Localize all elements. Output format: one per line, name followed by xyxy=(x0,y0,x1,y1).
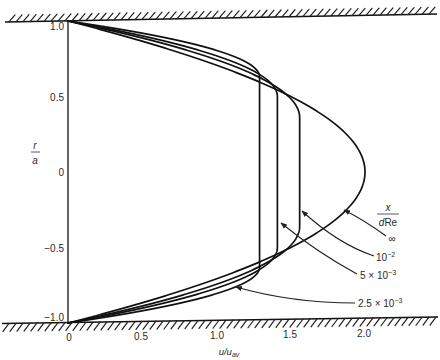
hatch-mark xyxy=(409,317,415,325)
y-tick-label: 0 xyxy=(58,167,64,178)
hatch-mark xyxy=(374,318,380,326)
hatch-mark xyxy=(429,7,435,14)
hatch-mark xyxy=(332,318,338,326)
y-tick-label: 0.5 xyxy=(50,92,64,103)
hatch-mark xyxy=(311,319,317,327)
hatch-mark xyxy=(37,14,43,21)
hatch-mark xyxy=(206,320,212,328)
hatch-mark xyxy=(416,317,422,325)
hatch-mark xyxy=(331,9,337,16)
hatch-mark xyxy=(178,321,184,329)
hatch-mark xyxy=(212,11,218,18)
hatch-mark xyxy=(226,11,232,18)
leader-lines xyxy=(236,210,386,303)
hatch-mark xyxy=(275,10,281,17)
x-tick-label: 1.0 xyxy=(210,330,224,341)
hatch-mark xyxy=(192,321,198,329)
hatch-mark xyxy=(234,320,240,328)
x-tick-label: 2.0 xyxy=(357,328,371,339)
x-tick-labels: 0 0.5 1.0 1.5 2.0 xyxy=(66,328,371,343)
profile-curve-5-x-10-3 xyxy=(68,21,277,323)
hatch-mark xyxy=(163,12,169,19)
y-axis-label: r a xyxy=(31,140,40,166)
hatch-mark xyxy=(128,13,134,20)
series-label-main: 2.5 × 10 xyxy=(358,298,395,309)
hatch-mark xyxy=(352,9,358,16)
hatch-mark xyxy=(345,9,351,16)
hatch-mark xyxy=(86,14,92,21)
hatch-mark xyxy=(157,321,163,329)
hatch-mark xyxy=(248,320,254,328)
hatch-mark xyxy=(150,321,156,329)
hatch-mark xyxy=(276,319,282,327)
hatch-mark xyxy=(52,323,58,331)
hatch-mark xyxy=(115,322,121,330)
series-label-exponent: −3 xyxy=(394,297,402,304)
hatch-mark xyxy=(289,10,295,17)
hatch-mark xyxy=(415,7,421,14)
x-axis-label-subscript: av xyxy=(232,351,240,358)
hatch-mark xyxy=(422,7,428,14)
x-tick-label: 0 xyxy=(66,332,72,343)
hatch-mark xyxy=(3,323,9,331)
hatch-mark xyxy=(164,321,170,329)
hatch-mark xyxy=(17,323,23,331)
hatch-mark xyxy=(177,12,183,19)
hatch-mark xyxy=(156,12,162,19)
hatch-mark xyxy=(199,320,205,328)
series-label-exponent: −2 xyxy=(387,251,395,258)
hatch-mark xyxy=(269,319,275,327)
hatch-mark xyxy=(191,12,197,19)
hatch-mark xyxy=(108,322,114,330)
x-axis-label: u/uav xyxy=(219,346,240,358)
hatch-mark xyxy=(283,319,289,327)
velocity-profiles xyxy=(68,21,365,323)
hatch-mark xyxy=(247,11,253,18)
velocity-profile-chart: 1.0 0.5 0 −0.5 −1.0 0 0.5 1.0 1.5 2.0 r … xyxy=(0,0,440,360)
hatch-mark xyxy=(317,9,323,16)
y-tick-label: −1.0 xyxy=(44,312,64,323)
hatch-mark xyxy=(136,321,142,329)
hatch-mark xyxy=(408,8,414,15)
hatch-mark xyxy=(23,15,29,22)
hatch-mark xyxy=(114,13,120,20)
hatch-mark xyxy=(184,12,190,19)
hatch-mark xyxy=(72,14,78,21)
hatch-mark xyxy=(73,322,79,330)
hatch-mark xyxy=(241,320,247,328)
leader-arrow-2_5e-3 xyxy=(236,287,355,303)
hatch-mark xyxy=(227,320,233,328)
y-tick-label: −0.5 xyxy=(44,243,64,254)
hatch-mark xyxy=(122,322,128,330)
series-label-infinity: ∞ xyxy=(388,233,395,244)
profile-curve-10-2 xyxy=(68,21,300,323)
hatch-mark xyxy=(353,318,359,326)
hatch-mark xyxy=(381,318,387,326)
hatch-mark xyxy=(254,10,260,17)
hatch-mark xyxy=(346,318,352,326)
hatch-mark xyxy=(171,321,177,329)
hatch-mark xyxy=(388,318,394,326)
hatch-mark xyxy=(318,319,324,327)
hatch-mark xyxy=(373,8,379,15)
hatch-mark xyxy=(45,323,51,331)
hatch-mark xyxy=(31,323,37,331)
hatch-mark xyxy=(297,319,303,327)
hatch-mark xyxy=(310,9,316,16)
hatch-mark xyxy=(325,319,331,327)
profile-curve-2-5-x-10-3 xyxy=(68,21,260,323)
series-labels: ∞ 10−2 5 × 10−3 2.5 × 10−3 xyxy=(358,233,403,309)
hatch-mark xyxy=(94,322,100,330)
hatch-mark xyxy=(87,322,93,330)
hatch-mark xyxy=(149,12,155,19)
hatch-mark xyxy=(101,322,107,330)
hatch-mark xyxy=(142,12,148,19)
hatch-mark xyxy=(401,8,407,15)
hatch-mark xyxy=(65,14,71,21)
hatch-mark xyxy=(324,9,330,16)
series-label-1e-2: 10−2 xyxy=(376,251,395,263)
hatch-mark xyxy=(290,319,296,327)
hatch-mark xyxy=(59,323,65,331)
hatch-mark xyxy=(16,15,22,22)
hatch-mark xyxy=(423,317,429,325)
